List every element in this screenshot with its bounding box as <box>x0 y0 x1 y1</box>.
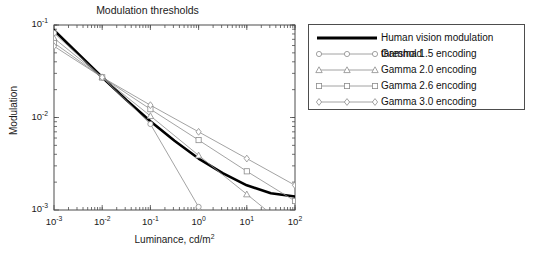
x-tick-label: 10-3 <box>34 216 74 227</box>
data-point-marker <box>196 137 201 142</box>
legend-label: Gamma 2.6 encoding <box>381 78 477 94</box>
legend-item: Gamma 2.6 encoding <box>309 78 524 94</box>
data-point-marker <box>244 191 250 197</box>
x-tick-label: 10-2 <box>82 216 122 227</box>
data-point-marker <box>148 121 153 126</box>
x-tick-label: 101 <box>227 216 267 227</box>
legend-swatch <box>315 62 379 78</box>
x-tick-label: 100 <box>179 216 219 227</box>
legend-label: Gamma 3.0 encoding <box>381 94 477 110</box>
legend-swatch <box>315 94 379 110</box>
legend-swatch <box>315 46 379 62</box>
legend-label: Gamma 2.0 encoding <box>381 62 477 78</box>
x-axis-label-text: Luminance, cd/m <box>135 234 211 245</box>
legend-item: Human vision modulation threshold <box>309 30 524 46</box>
data-point-marker <box>244 250 249 255</box>
legend-swatch <box>315 78 379 94</box>
data-point-marker <box>51 35 57 41</box>
series-0 <box>54 30 295 196</box>
y-tick-label: 10-1 <box>6 18 48 29</box>
chart-figure: Modulation thresholds Modulation Luminan… <box>0 0 536 257</box>
legend-box: Human vision modulation thresholdGamma 1… <box>308 24 525 110</box>
data-point-marker <box>196 204 201 209</box>
x-tick-label: 102 <box>275 216 315 227</box>
series-2 <box>51 35 298 236</box>
data-point-marker <box>292 182 297 189</box>
axis-ticks <box>54 25 295 210</box>
legend-item: Gamma 2.0 encoding <box>309 62 524 78</box>
legend-item: Gamma 1.5 encoding <box>309 46 524 62</box>
x-axis-label: Luminance, cd/m2 <box>54 234 295 245</box>
data-point-marker <box>147 113 153 119</box>
data-point-marker <box>292 198 297 203</box>
legend-label: Gamma 1.5 encoding <box>381 46 477 62</box>
data-point-marker <box>244 155 249 162</box>
data-point-marker <box>196 128 201 135</box>
legend-item: Gamma 3.0 encoding <box>309 94 524 110</box>
axes-frame <box>54 25 295 210</box>
legend-swatch <box>315 30 379 46</box>
data-point-marker <box>244 169 249 174</box>
chart-title: Modulation thresholds <box>0 4 295 16</box>
y-tick-label: 10-3 <box>6 203 48 214</box>
x-axis-label-exponent: 2 <box>211 233 215 240</box>
x-tick-label: 10-1 <box>130 216 170 227</box>
y-tick-label: 10-2 <box>6 111 48 122</box>
